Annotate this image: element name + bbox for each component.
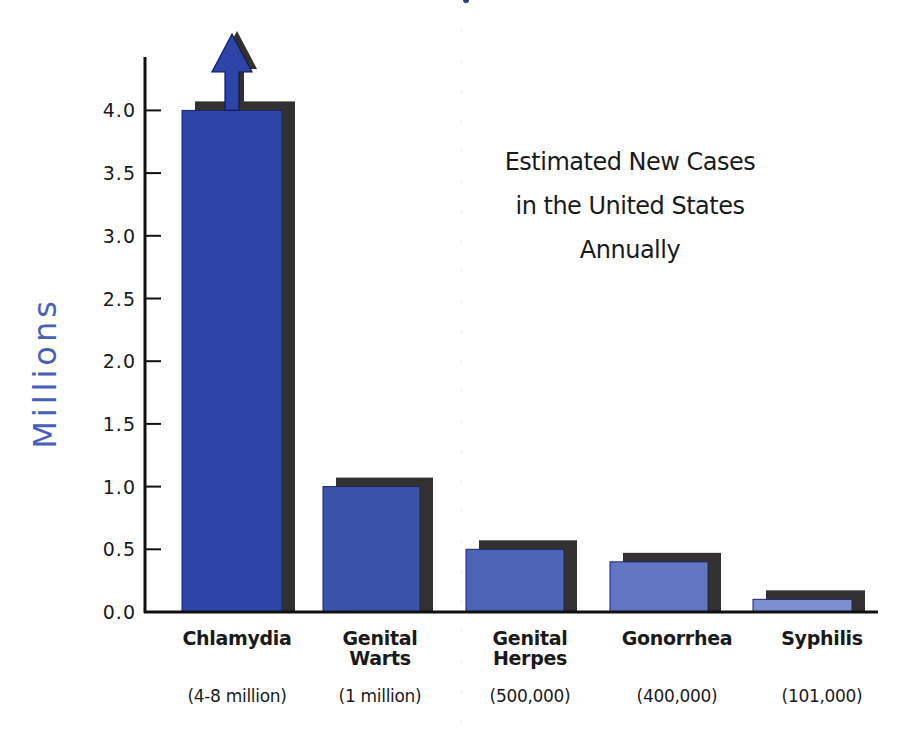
bar-chart: Millions Estimated New Cases in the Unit… bbox=[0, 0, 905, 740]
bar-chlamydia bbox=[182, 110, 282, 612]
y-tick-label: 1.0 bbox=[84, 476, 136, 498]
category-label: Chlamydia bbox=[182, 628, 291, 648]
y-tick-label: 2.5 bbox=[84, 288, 136, 310]
y-tick-label: 1.5 bbox=[84, 413, 136, 435]
y-tick-label: 4.0 bbox=[84, 99, 136, 121]
bar-gonorrhea bbox=[610, 562, 708, 612]
overflow-arrow-icon bbox=[212, 34, 252, 110]
y-tick-label: 3.5 bbox=[84, 162, 136, 184]
chart-title-line-1: Estimated New Cases bbox=[460, 140, 800, 184]
y-tick-label: 0.0 bbox=[84, 601, 136, 623]
bar-genital-herpes bbox=[466, 549, 564, 612]
bar-syphilis bbox=[753, 599, 852, 612]
category-label: Gonorrhea bbox=[622, 628, 733, 648]
chart-title: Estimated New Cases in the United States… bbox=[460, 140, 800, 272]
category-value-label: (4-8 million) bbox=[187, 686, 286, 706]
category-label: GenitalWarts bbox=[343, 628, 418, 668]
category-value-label: (1 million) bbox=[339, 686, 422, 706]
bar-genital-warts bbox=[323, 487, 420, 612]
category-value-label: (400,000) bbox=[637, 686, 718, 706]
category-value-label: (500,000) bbox=[490, 686, 571, 706]
category-label: Syphilis bbox=[781, 628, 863, 648]
y-axis-label: Millions bbox=[26, 297, 64, 449]
category-label: GenitalHerpes bbox=[493, 628, 568, 668]
chart-title-line-2: in the United States bbox=[460, 184, 800, 228]
y-tick-label: 0.5 bbox=[84, 538, 136, 560]
y-tick-label: 2.0 bbox=[84, 350, 136, 372]
chart-title-line-3: Annually bbox=[460, 228, 800, 272]
y-tick-label: 3.0 bbox=[84, 225, 136, 247]
category-value-label: (101,000) bbox=[782, 686, 863, 706]
